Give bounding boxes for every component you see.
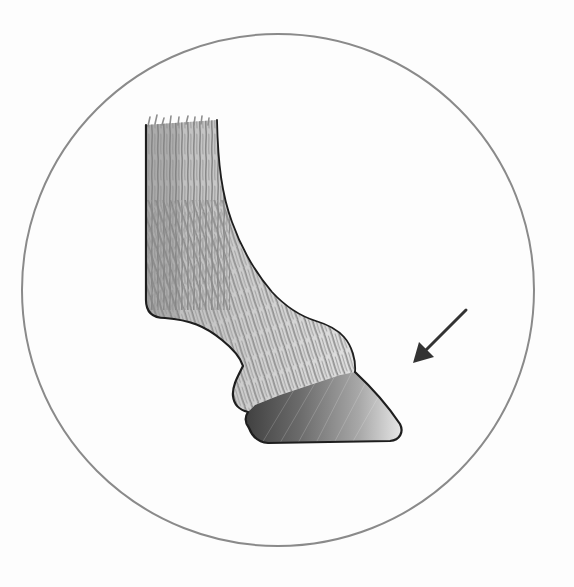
illustration-canvas	[0, 0, 574, 587]
background	[0, 0, 574, 587]
horse-hoof-illustration	[0, 0, 574, 587]
